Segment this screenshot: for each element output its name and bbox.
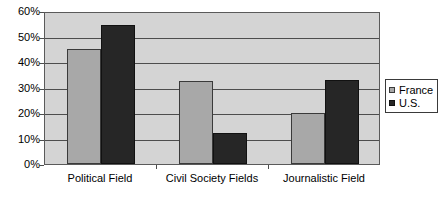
y-axis-tick-label: 30% xyxy=(4,83,40,94)
x-axis-category-label: Political Field xyxy=(44,172,156,185)
y-axis-tick-label: 40% xyxy=(4,57,40,68)
bar-chart: 60%50%40%30%20%10%0% Political FieldCivi… xyxy=(0,0,447,202)
y-axis-tick-mark xyxy=(39,140,44,141)
chart-legend: FranceU.S. xyxy=(385,79,438,113)
y-axis-tick-label: 0% xyxy=(4,159,40,170)
y-axis-tick-label: 20% xyxy=(4,108,40,119)
y-axis: 60%50%40%30%20%10%0% xyxy=(0,0,40,202)
y-axis-tick-mark xyxy=(39,165,44,166)
gridline xyxy=(45,38,379,39)
bar-us-journalistic-field xyxy=(325,80,359,164)
x-axis: Political FieldCivil Society FieldsJourn… xyxy=(44,172,380,192)
plot-area xyxy=(44,12,380,165)
legend-item-label: France xyxy=(399,84,433,96)
bar-france-journalistic-field xyxy=(291,113,325,164)
y-axis-tick-mark xyxy=(39,89,44,90)
legend-item-label: U.S. xyxy=(399,97,420,109)
bar-france-political-field xyxy=(67,49,101,164)
y-axis-tick-mark xyxy=(39,114,44,115)
y-axis-tick-mark xyxy=(39,38,44,39)
bar-france-civil-society-fields xyxy=(179,81,213,164)
legend-item[interactable]: U.S. xyxy=(389,96,433,109)
x-axis-tick-mark xyxy=(268,165,269,169)
legend-swatch-us xyxy=(389,100,395,106)
y-axis-tick-mark xyxy=(39,63,44,64)
y-axis-tick-mark xyxy=(39,12,44,13)
bar-us-civil-society-fields xyxy=(213,133,247,164)
legend-item[interactable]: France xyxy=(389,83,433,96)
y-axis-tick-label: 50% xyxy=(4,32,40,43)
legend-swatch-france xyxy=(389,87,395,93)
x-axis-category-label: Journalistic Field xyxy=(268,172,380,185)
x-axis-tick-mark xyxy=(156,165,157,169)
y-axis-tick-label: 60% xyxy=(4,6,40,17)
x-axis-category-label: Civil Society Fields xyxy=(156,172,268,185)
y-axis-tick-label: 10% xyxy=(4,134,40,145)
bar-us-political-field xyxy=(101,25,135,164)
